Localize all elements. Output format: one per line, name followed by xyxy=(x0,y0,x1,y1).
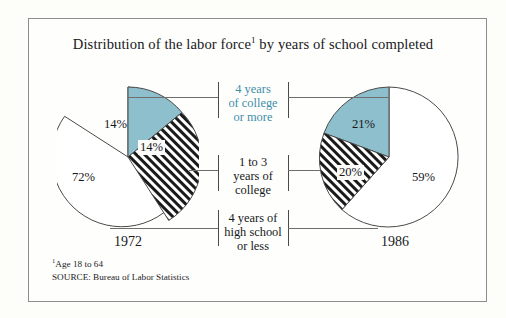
page-title: Distribution of the labor force1 by year… xyxy=(0,36,506,53)
leader-line-middle-right xyxy=(288,170,320,171)
legend-middle-line3: college xyxy=(205,183,301,197)
bracket-bar-top-right xyxy=(288,82,289,118)
leader-line-top-right xyxy=(288,97,389,98)
footnote-source: SOURCE: Bureau of Labor Statistics xyxy=(52,271,189,284)
leader-line-bottom-right xyxy=(288,228,378,229)
legend-top-line3: or more xyxy=(205,110,301,124)
pct-1986-college-1to3: 20% xyxy=(337,165,364,180)
legend-top-line1: 4 years xyxy=(205,82,301,96)
legend-middle-line1: 1 to 3 xyxy=(205,155,301,169)
footnote-age: 1Age 18 to 64 xyxy=(52,258,189,271)
legend-label-highschool-or-less: 4 years of high school or less xyxy=(205,211,301,253)
bracket-bar-middle-right xyxy=(288,155,289,191)
leader-line-bottom-left xyxy=(110,228,218,229)
pie-1986-svg xyxy=(318,86,460,228)
pie-chart-1986 xyxy=(318,86,460,228)
title-main-text: Distribution of the labor force xyxy=(73,36,251,52)
footnote-block: 1Age 18 to 64 SOURCE: Bureau of Labor St… xyxy=(52,258,189,283)
legend-bottom-line3: or less xyxy=(205,239,301,253)
legend-label-college-4plus: 4 years of college or more xyxy=(205,82,301,124)
pct-1972-college-4plus: 14% xyxy=(104,117,127,132)
pct-1972-college-1to3: 14% xyxy=(138,140,165,155)
legend-top-line2: of college xyxy=(205,96,301,110)
title-rest-text: by years of school completed xyxy=(256,36,434,52)
chart-page: Distribution of the labor force1 by year… xyxy=(0,0,506,318)
footnote-age-text: Age 18 to 64 xyxy=(55,259,103,269)
pie-chart-1972 xyxy=(57,86,199,228)
pie-1972-svg xyxy=(57,86,199,228)
year-label-1972: 1972 xyxy=(68,234,188,250)
pct-1986-highschool-or-less: 59% xyxy=(412,170,435,185)
legend-middle-line2: years of xyxy=(205,169,301,183)
year-label-1986: 1986 xyxy=(335,234,455,250)
legend-label-college-1to3: 1 to 3 years of college xyxy=(205,155,301,197)
legend-bottom-line2: high school xyxy=(205,225,301,239)
pct-1986-college-4plus: 21% xyxy=(352,117,375,132)
pct-1972-highschool-or-less: 72% xyxy=(72,170,95,185)
legend-bottom-line1: 4 years of xyxy=(205,211,301,225)
